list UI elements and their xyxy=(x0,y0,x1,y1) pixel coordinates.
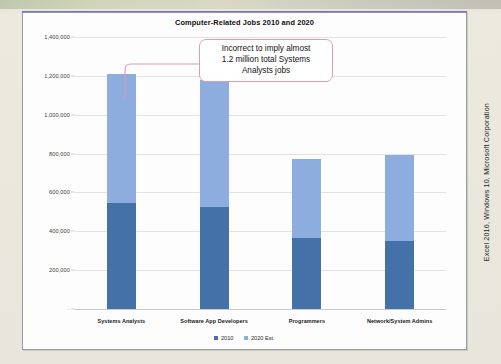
chart-title: Computer-Related Jobs 2010 and 2020 xyxy=(23,18,466,27)
bar-group[interactable]: Software App Developers xyxy=(200,80,229,309)
bar-segment-2010[interactable] xyxy=(200,207,229,309)
y-axis-tick-mark xyxy=(71,309,75,310)
bar-segment-2020-est-[interactable] xyxy=(292,159,321,238)
y-axis-tick-mark xyxy=(71,270,75,271)
bar-group[interactable]: Network/System Admins xyxy=(385,155,414,309)
gridline xyxy=(75,309,446,310)
y-axis-tick-label: 400,000 xyxy=(49,228,70,234)
gridline xyxy=(75,37,446,38)
page-top-tint xyxy=(0,0,501,9)
y-axis-tick-mark xyxy=(71,75,75,76)
bar-segment-2020-est-[interactable] xyxy=(107,74,136,203)
y-axis-tick-label: 800,000 xyxy=(49,151,70,157)
source-caption: Excel 2016, Windows 10, Microsoft Corpor… xyxy=(475,0,497,364)
bar-segment-2020-est-[interactable] xyxy=(200,80,229,207)
y-axis-tick-mark xyxy=(71,37,75,38)
bar-group[interactable]: Programmers xyxy=(292,159,321,309)
y-axis-tick-mark xyxy=(71,231,75,232)
legend-item[interactable]: 2010 xyxy=(214,335,233,341)
legend-item[interactable]: 2020 Est. xyxy=(244,335,274,341)
chart-legend: 20102020 Est. xyxy=(23,335,466,341)
y-axis-tick-label: - xyxy=(68,306,70,312)
legend-swatch-icon xyxy=(244,336,248,340)
bar-segment-2010[interactable] xyxy=(292,238,321,309)
y-axis-tick-label: 1,000,000 xyxy=(44,112,70,118)
callout-line-1: Incorrect to imply almost xyxy=(206,44,326,55)
legend-label: 2010 xyxy=(221,335,233,341)
bar-segment-2010[interactable] xyxy=(107,203,136,309)
callout-annotation: Incorrect to imply almost 1.2 million to… xyxy=(199,39,333,82)
y-axis-tick-mark xyxy=(71,114,75,115)
callout-line-3: Analysts jobs xyxy=(206,66,326,77)
y-axis-tick-label: 1,400,000 xyxy=(44,34,70,40)
legend-swatch-icon xyxy=(214,336,218,340)
x-axis-category-label: Network/System Admins xyxy=(367,318,432,324)
y-axis-tick-label: 200,000 xyxy=(49,267,70,273)
x-axis-category-label: Programmers xyxy=(289,318,325,324)
bar-segment-2020-est-[interactable] xyxy=(385,155,414,241)
x-axis-category-label: Systems Analysts xyxy=(98,318,146,324)
x-axis-category-label: Software App Developers xyxy=(180,318,248,324)
source-caption-text: Excel 2016, Windows 10, Microsoft Corpor… xyxy=(482,103,491,261)
bar-group[interactable]: Systems Analysts xyxy=(107,74,136,309)
y-axis-tick-label: 600,000 xyxy=(49,189,70,195)
legend-label: 2020 Est. xyxy=(251,335,275,341)
y-axis-tick-mark xyxy=(71,192,75,193)
y-axis-tick-mark xyxy=(71,153,75,154)
callout-line-2: 1.2 million total Systems xyxy=(206,55,326,66)
chart-card: Computer-Related Jobs 2010 and 2020 -200… xyxy=(22,11,467,350)
y-axis-tick-label: 1,200,000 xyxy=(44,73,70,79)
bar-segment-2010[interactable] xyxy=(385,241,414,309)
